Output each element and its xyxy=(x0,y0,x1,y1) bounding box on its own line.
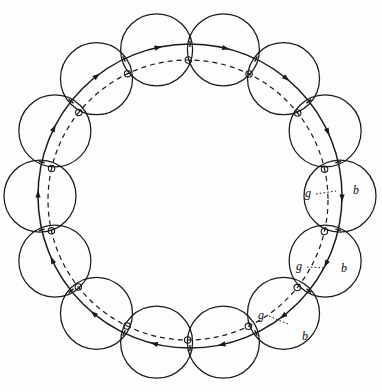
figure-canvas: gbgbgb xyxy=(0,0,382,392)
dashed-ring-circle xyxy=(48,60,328,340)
leader-lines-group xyxy=(269,191,336,324)
solid-ring-group xyxy=(38,44,342,348)
point-label-b1: b xyxy=(353,183,359,197)
direction-arrowhead xyxy=(35,190,40,198)
direction-arrowhead xyxy=(222,45,230,50)
direction-arrowhead xyxy=(324,259,330,267)
small-circles-group xyxy=(4,14,376,378)
direction-arrowhead xyxy=(154,46,162,51)
tangency-tick xyxy=(335,229,341,230)
point-label-g2: g xyxy=(296,259,302,273)
direction-arrowhead xyxy=(50,257,56,265)
point-labels-group: gbgbgb xyxy=(258,183,359,343)
leader-line-leader-g2 xyxy=(307,267,326,268)
diagram-svg: gbgbgb xyxy=(0,0,382,392)
direction-arrowhead xyxy=(50,125,56,133)
point-label-b3: b xyxy=(302,329,308,343)
point-label-g3: g xyxy=(258,308,264,322)
direction-arrowhead xyxy=(218,341,226,346)
point-label-g1: g xyxy=(305,186,311,200)
tangency-tick xyxy=(39,229,45,230)
leader-line-leader-g1 xyxy=(316,191,336,194)
dashed-ring-group xyxy=(48,60,328,340)
point-label-b2: b xyxy=(341,261,347,275)
tangency-tick xyxy=(39,162,45,163)
tangency-tick xyxy=(335,162,341,163)
direction-arrowhead xyxy=(150,342,158,347)
solid-ring-circle xyxy=(38,44,342,348)
direction-arrowhead xyxy=(339,195,344,203)
direction-arrowhead xyxy=(324,128,330,136)
